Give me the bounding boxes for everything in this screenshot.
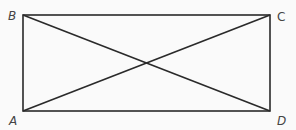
vertex-label-d: D (277, 114, 286, 128)
rectangle-diagram: B C A D (0, 0, 296, 130)
vertex-label-b: B (8, 9, 16, 23)
vertex-label-c: C (277, 10, 285, 24)
vertex-label-a: A (8, 114, 17, 128)
